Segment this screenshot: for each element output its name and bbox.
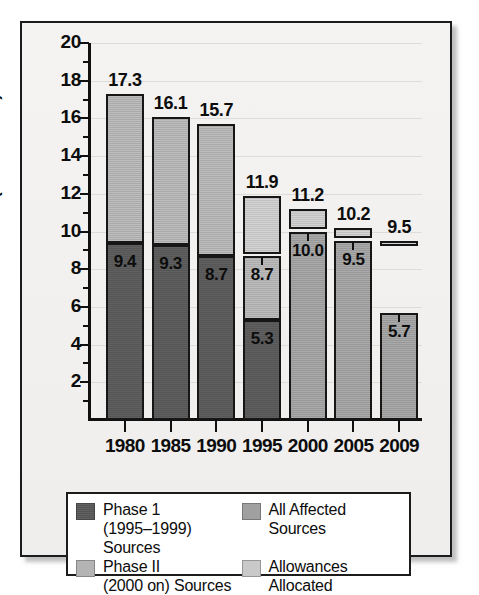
bar-value-label: 5.7 <box>388 322 410 342</box>
legend-swatch-icon <box>242 503 261 520</box>
x-axis-tick <box>261 421 263 432</box>
value-marker-tick <box>307 233 309 241</box>
x-axis-tick-label: 2005 <box>333 435 373 457</box>
chart-card-background: SO2 Emissions (million tons) 20181614121… <box>22 23 450 555</box>
y-axis-minor-tick <box>83 212 89 214</box>
x-axis-tick <box>307 421 309 432</box>
y-axis-tick-label: 2 <box>35 370 81 392</box>
bar-value-label: 9.4 <box>114 252 136 272</box>
x-axis-tick-label: 1980 <box>105 435 145 457</box>
chart-card: SO2 Emissions (million tons) 20181614121… <box>20 21 452 557</box>
bar-value-label: 9.3 <box>159 254 181 274</box>
x-axis-tick-label: 1995 <box>242 435 282 457</box>
y-axis-tick <box>80 381 89 383</box>
legend-label: Phase 1(1995–1999) Sources <box>103 500 236 557</box>
legend-label-line2: Sources <box>269 519 346 538</box>
bar-2005 <box>334 43 372 420</box>
bar-value-label: 10.0 <box>292 241 324 261</box>
bar-1980 <box>106 43 144 420</box>
y-axis-title: SO2 Emissions (million tons) <box>0 94 4 324</box>
chart-legend: Phase 1(1995–1999) SourcesAll AffectedSo… <box>66 492 411 576</box>
bar-total-label: 15.7 <box>200 100 233 121</box>
bar-segment-phase2 <box>197 124 235 256</box>
y-axis-minor-tick <box>83 249 89 251</box>
legend-label-line1: Phase 1 <box>103 501 160 518</box>
bar-segment-allowances <box>334 228 372 238</box>
bar-total-label: 11.9 <box>246 172 278 193</box>
y-axis-minor-tick <box>83 325 89 327</box>
bar-value-label: 8.7 <box>205 265 227 285</box>
y-axis-tick-label: 16 <box>35 106 81 128</box>
bar-segment-allowances <box>243 196 281 254</box>
legend-label-line2: (1995–1999) Sources <box>103 519 236 557</box>
bar-total-label: 11.2 <box>291 185 323 206</box>
legend-label-line1: All Affected <box>269 501 346 518</box>
y-axis-tick-label: 8 <box>35 257 81 279</box>
bar-value-label: 8.7 <box>251 265 273 285</box>
y-axis-tick <box>80 117 89 119</box>
y-axis-minor-tick <box>83 362 89 364</box>
y-axis-tick-label: 18 <box>35 69 81 91</box>
bar-value-label: 5.3 <box>251 329 273 349</box>
legend-item: AllowancesAllocated <box>242 557 402 595</box>
legend-grid: Phase 1(1995–1999) SourcesAll AffectedSo… <box>76 500 401 568</box>
legend-label: All AffectedSources <box>269 500 346 538</box>
legend-label-line1: Allowances <box>269 558 348 575</box>
bar-segment-allowances <box>380 241 418 246</box>
legend-label: Phase II(2000 on) Sources <box>103 557 231 595</box>
y-axis-tick <box>80 344 89 346</box>
legend-item: All AffectedSources <box>242 500 402 557</box>
y-axis-tick-label: 20 <box>35 31 81 53</box>
y-axis-tick <box>80 42 89 44</box>
y-axis-minor-tick <box>83 136 89 138</box>
y-axis-minor-tick <box>83 400 89 402</box>
x-axis-tick <box>215 421 217 432</box>
legend-swatch-icon <box>76 503 95 520</box>
legend-label-line2: Allocated <box>269 576 348 595</box>
bar-total-label: 16.1 <box>154 93 187 114</box>
legend-label-line2: (2000 on) Sources <box>103 576 231 595</box>
x-axis-tick <box>124 421 126 432</box>
bar-total-label: 17.3 <box>108 70 141 91</box>
bar-1995 <box>243 43 281 420</box>
bar-2000 <box>289 43 327 420</box>
legend-item: Phase II(2000 on) Sources <box>76 557 236 595</box>
y-axis-tick <box>80 155 89 157</box>
y-axis-tick <box>80 306 89 308</box>
x-axis-tick-label: 1990 <box>196 435 236 457</box>
x-axis-tick-label: 1985 <box>151 435 191 457</box>
x-axis-tick <box>398 421 400 432</box>
x-axis-tick-label: 2000 <box>288 435 328 457</box>
legend-label-line1: Phase II <box>103 558 160 575</box>
y-axis-tick <box>80 80 89 82</box>
value-marker-tick <box>352 242 354 250</box>
bar-value-label: 9.5 <box>342 250 364 270</box>
y-axis-tick-label: 14 <box>35 144 81 166</box>
bar-segment-phase2 <box>152 117 190 245</box>
bar-total-label: 10.2 <box>337 204 370 225</box>
y-axis-tick-label: 10 <box>35 220 81 242</box>
legend-swatch-icon <box>76 560 95 577</box>
bar-total-label: 9.5 <box>387 217 411 238</box>
x-axis-tick <box>352 421 354 432</box>
x-axis-tick-label: 2009 <box>379 435 419 457</box>
y-axis-tick-label: 12 <box>35 182 81 204</box>
bar-segment-phase2 <box>106 94 144 243</box>
value-marker-tick <box>261 257 263 265</box>
bar-segment-allowances <box>289 209 327 229</box>
y-axis-tick <box>80 193 89 195</box>
y-axis-minor-tick <box>83 287 89 289</box>
y-axis-tick-label: 6 <box>35 295 81 317</box>
y-axis-tick-label: 4 <box>35 333 81 355</box>
plot-area: 2018161412108642 17.39.416.19.315.78.711… <box>88 43 422 420</box>
legend-swatch-icon <box>242 560 261 577</box>
value-marker-tick <box>398 314 400 322</box>
legend-item: Phase 1(1995–1999) Sources <box>76 500 236 557</box>
y-axis-minor-tick <box>83 174 89 176</box>
y-axis-minor-tick <box>83 99 89 101</box>
y-axis-tick <box>80 268 89 270</box>
y-axis-tick <box>80 231 89 233</box>
y-axis-minor-tick <box>83 61 89 63</box>
x-axis-tick <box>170 421 172 432</box>
